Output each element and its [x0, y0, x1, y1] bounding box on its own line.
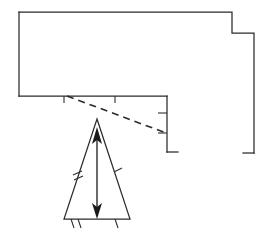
- dashed-sight-line: [67, 96, 166, 133]
- triangle-base-tick-c: [115, 219, 118, 228]
- triangle-base-tick-b: [78, 219, 81, 228]
- triangle-left-tick-a: [73, 171, 82, 175]
- outer-boundary-polygon: [19, 12, 254, 153]
- technical-line-drawing: [0, 0, 265, 240]
- triangle-base-tick-a: [71, 219, 74, 228]
- triangle-right-tick: [114, 168, 122, 172]
- diagram-canvas: [0, 0, 265, 240]
